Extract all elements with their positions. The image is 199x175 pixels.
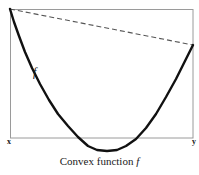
axis-label-y: y <box>192 138 196 146</box>
figure-caption: Convex function f <box>0 155 199 167</box>
figure-caption-text: Convex function <box>60 155 134 167</box>
curve-label-f: f <box>33 66 36 78</box>
convex-function-plot <box>0 0 199 175</box>
figure-caption-symbol: f <box>136 155 139 167</box>
convex-function-figure: f x y Convex function f <box>0 0 199 175</box>
axis-label-x: x <box>7 138 11 146</box>
